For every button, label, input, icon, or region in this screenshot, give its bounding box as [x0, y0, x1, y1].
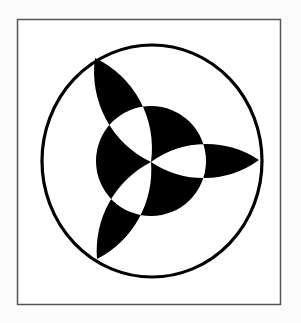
- figure-canvas: [0, 0, 301, 323]
